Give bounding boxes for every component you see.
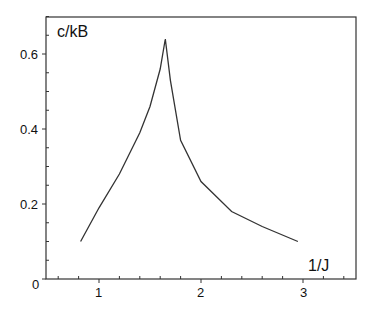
y-tick-0.2: 0.2 [20, 198, 38, 211]
y-tick-0.4: 0.4 [20, 123, 38, 136]
x-tick-1: 1 [95, 286, 102, 299]
origin-label: 0 [32, 278, 39, 291]
x-tick-2: 2 [197, 286, 204, 299]
specific-heat-curve [81, 39, 298, 242]
x-tick-3: 3 [300, 286, 307, 299]
plot-frame [46, 17, 356, 279]
y-axis-label: c/kB [57, 24, 88, 40]
y-tick-0.6: 0.6 [20, 48, 38, 61]
x-axis-label: 1/J [308, 258, 329, 274]
